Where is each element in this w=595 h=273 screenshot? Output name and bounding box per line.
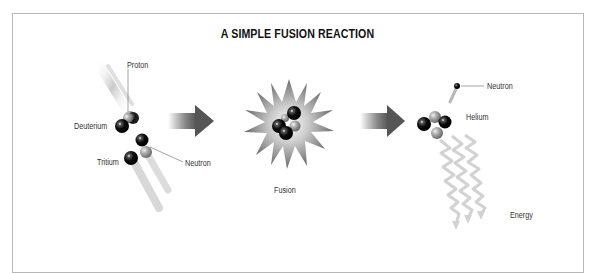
label-neutron-in: Neutron	[185, 158, 211, 168]
deuterium-nucleus	[115, 111, 139, 133]
arrow-right-icon	[168, 105, 214, 137]
helium-nucleus	[417, 111, 452, 139]
arrow-right-icon	[360, 105, 405, 137]
label-deuterium: Deuterium	[74, 121, 107, 131]
label-helium: Helium	[466, 112, 488, 122]
label-proton: Proton	[127, 60, 148, 70]
label-fusion: Fusion	[274, 185, 296, 195]
fusion-burst-icon	[244, 79, 334, 169]
free-neutron	[450, 83, 484, 102]
label-tritium: Tritium	[97, 157, 119, 167]
label-neutron-out: Neutron	[487, 81, 513, 91]
energy-waves-icon	[440, 135, 485, 230]
label-energy: Energy	[510, 210, 533, 220]
neutron-particle	[115, 119, 129, 133]
tritium-trail	[133, 150, 168, 208]
